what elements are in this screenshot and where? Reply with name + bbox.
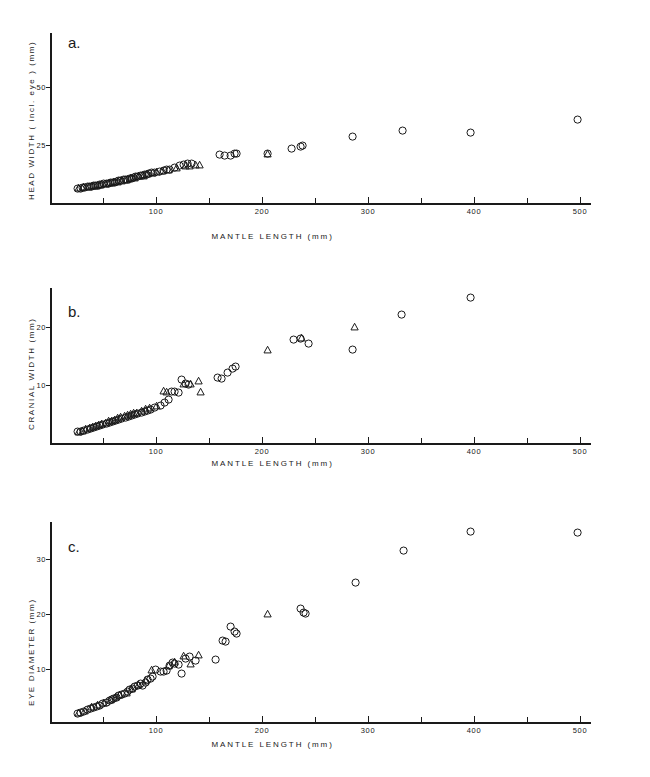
x-tick-500	[580, 716, 581, 722]
y-tick-10	[46, 669, 51, 670]
data-point-triangle	[263, 609, 272, 618]
data-point-circle	[114, 691, 123, 700]
data-point-circle	[573, 528, 582, 537]
data-point-triangle	[111, 692, 120, 701]
data-point-triangle	[99, 698, 108, 707]
data-point-triangle	[115, 690, 124, 699]
data-point-circle	[130, 682, 139, 691]
data-point-circle	[98, 699, 107, 708]
data-point-circle	[125, 685, 134, 694]
data-point-circle	[191, 656, 200, 665]
y-tick-20	[46, 614, 51, 615]
x-tick-250	[315, 717, 316, 722]
figure-root: 1002003004005002550MANTLE LENGTH (mm)HEA…	[0, 0, 650, 777]
data-point-circle	[162, 666, 171, 675]
data-point-triangle	[87, 702, 96, 711]
data-point-triangle	[127, 684, 136, 693]
data-point-triangle	[106, 695, 115, 704]
data-point-circle	[185, 652, 194, 661]
x-tick-50	[103, 717, 104, 722]
x-tick-450	[527, 717, 528, 722]
chart-panel-c: 100200300400500102030MANTLE LENGTH (mm)E…	[0, 0, 650, 777]
data-point-circle	[89, 703, 98, 712]
data-point-circle	[105, 696, 114, 705]
data-point-circle	[138, 681, 147, 690]
x-tick-300	[368, 716, 369, 722]
data-point-triangle	[164, 661, 173, 670]
data-point-triangle	[134, 680, 143, 689]
data-point-circle	[148, 672, 157, 681]
data-point-circle	[86, 704, 95, 713]
data-point-circle	[133, 681, 142, 690]
x-axis-line	[50, 722, 591, 724]
x-axis-title: MANTLE LENGTH (mm)	[211, 740, 333, 749]
x-tick-label-200: 200	[255, 726, 269, 735]
data-point-circle	[128, 684, 137, 693]
data-point-circle	[218, 636, 227, 645]
data-point-triangle	[80, 706, 89, 715]
data-point-circle	[165, 661, 174, 670]
data-point-circle	[143, 675, 152, 684]
data-point-circle	[102, 698, 111, 707]
x-tick-label-100: 100	[149, 726, 163, 735]
data-point-circle	[95, 701, 104, 710]
data-point-circle	[151, 665, 160, 674]
x-tick-150	[209, 717, 210, 722]
data-point-triangle	[179, 651, 188, 660]
data-point-triangle	[93, 700, 102, 709]
data-point-circle	[79, 707, 88, 716]
data-point-circle	[83, 705, 92, 714]
data-point-circle	[136, 679, 145, 688]
data-point-circle	[92, 702, 101, 711]
data-point-circle	[112, 693, 121, 702]
data-point-circle	[351, 578, 360, 587]
x-tick-200	[262, 716, 263, 722]
x-tick-label-500: 500	[573, 726, 587, 735]
data-point-triangle	[170, 657, 179, 666]
data-point-circle	[221, 637, 230, 646]
data-point-triangle	[141, 676, 150, 685]
data-point-circle	[73, 709, 82, 718]
data-point-circle	[174, 660, 183, 669]
data-point-circle	[177, 669, 186, 678]
x-tick-350	[421, 717, 422, 722]
data-point-triangle	[186, 659, 195, 668]
data-point-circle	[123, 687, 132, 696]
data-point-triangle	[147, 665, 156, 674]
data-point-triangle	[122, 688, 131, 697]
data-point-circle	[301, 609, 310, 618]
y-tick-label-10: 10	[36, 665, 46, 674]
x-tick-100	[156, 716, 157, 722]
y-tick-label-20: 20	[36, 610, 46, 619]
data-point-circle	[299, 608, 308, 617]
data-point-circle	[399, 546, 408, 555]
data-point-triangle	[74, 708, 83, 717]
data-point-circle	[141, 678, 150, 687]
x-tick-label-300: 300	[361, 726, 375, 735]
data-point-circle	[170, 659, 179, 668]
data-point-circle	[120, 689, 129, 698]
data-point-circle	[107, 695, 116, 704]
data-point-circle	[146, 674, 155, 683]
data-point-circle	[230, 627, 239, 636]
data-point-triangle	[194, 650, 203, 659]
panel-label: c.	[68, 538, 80, 555]
x-tick-label-400: 400	[467, 726, 481, 735]
data-point-circle	[76, 708, 85, 717]
data-point-circle	[156, 667, 165, 676]
data-point-circle	[117, 690, 126, 699]
data-point-circle	[296, 604, 305, 613]
data-point-circle	[226, 622, 235, 631]
y-tick-30	[46, 559, 51, 560]
data-point-circle	[211, 655, 220, 664]
data-point-circle	[232, 629, 241, 638]
data-point-circle	[109, 694, 118, 703]
data-point-circle	[159, 667, 168, 676]
data-point-circle	[168, 658, 177, 667]
y-axis-title: EYE DIAMETER (mm)	[27, 598, 36, 706]
y-tick-label-30: 30	[36, 555, 46, 564]
y-axis-line	[50, 522, 52, 724]
data-point-circle	[466, 527, 475, 536]
x-tick-400	[474, 716, 475, 722]
data-point-circle	[181, 654, 190, 663]
